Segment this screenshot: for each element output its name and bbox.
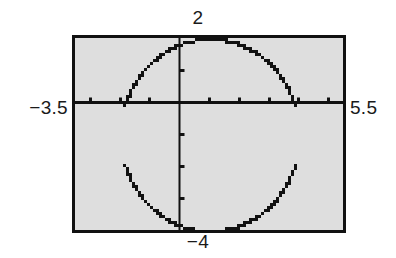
calculator-viewport xyxy=(72,35,346,233)
calculator-screenshot: 2 −3.5 5.5 −4 xyxy=(0,0,396,258)
graph-plot-area xyxy=(75,38,343,230)
y-min-label: −4 xyxy=(0,232,396,251)
x-min-label: −3.5 xyxy=(0,98,68,117)
x-max-label: 5.5 xyxy=(350,98,396,117)
y-max-label: 2 xyxy=(0,8,396,27)
